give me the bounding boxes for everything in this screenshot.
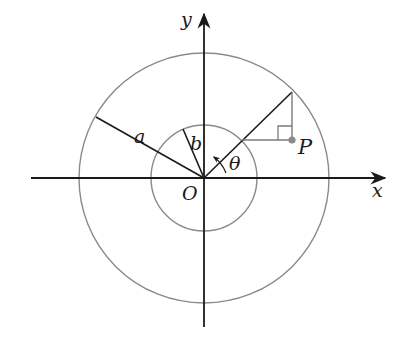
theta-arc [214,157,226,173]
outer-radius-label: a [134,125,145,147]
y-axis-label: y [180,8,192,30]
outer-radius-line [96,117,204,178]
theta-ray [204,92,292,178]
inner-radius-label: b [190,132,202,154]
origin-label: O [182,182,198,204]
point-p [288,136,295,143]
angle-label: θ [229,152,241,174]
polar-diagram: y x O a b θ P [0,0,399,347]
x-axis-label: x [372,179,383,201]
point-label: P [297,135,313,159]
